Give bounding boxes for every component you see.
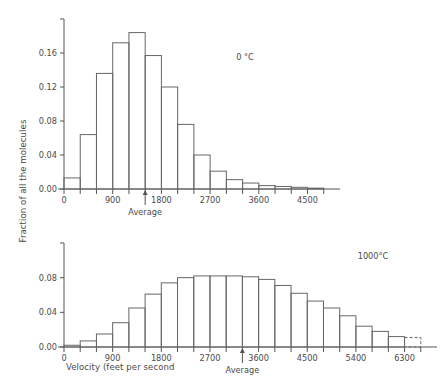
histogram-bar	[178, 278, 194, 347]
average-arrow-head	[143, 190, 148, 195]
x-axis-tick-label: 5400	[345, 353, 366, 363]
histogram-bar	[356, 326, 372, 347]
histogram-bar	[145, 294, 161, 347]
x-axis-tick-label: 1800	[151, 195, 172, 205]
histogram-bar	[194, 276, 210, 347]
x-axis-tick-label: 0	[61, 195, 66, 205]
histogram-bar	[226, 180, 242, 189]
average-arrow-head	[240, 348, 245, 353]
histogram-bar	[242, 277, 258, 347]
histogram-bar	[64, 178, 80, 189]
histogram-bar	[80, 341, 96, 347]
histogram-bar	[372, 331, 388, 347]
histogram-bar	[80, 135, 96, 189]
chart-1000c: 0.000.040.080900180027003600450054006300…	[39, 243, 437, 375]
average-label: Average	[226, 365, 260, 375]
temperature-annotation: 1000°C	[358, 251, 389, 261]
y-axis-tick-label: 0.12	[39, 82, 57, 92]
chart-0c: 0.000.040.080.120.1609001800270036004500…	[39, 19, 340, 217]
histogram-bar	[291, 187, 307, 189]
charts-svg: 0.000.040.080.120.1609001800270036004500…	[0, 0, 448, 388]
histogram-bar	[259, 279, 275, 347]
histogram-bar	[145, 56, 161, 189]
histogram-bar	[161, 87, 177, 189]
histogram-bar	[275, 186, 291, 189]
histogram-bar	[96, 334, 112, 347]
histogram-bar	[405, 337, 421, 347]
histogram-bar	[323, 308, 339, 347]
histogram-bar	[307, 301, 323, 347]
y-axis-tick-label: 0.00	[39, 342, 57, 352]
histogram-bar	[210, 171, 226, 189]
histogram-bar	[96, 73, 112, 189]
x-axis-tick-label: 6300	[394, 353, 415, 363]
y-axis-label: Fraction of all the molecules	[18, 106, 28, 256]
x-axis-tick-label: 2700	[200, 353, 221, 363]
histogram-bar	[113, 43, 129, 189]
y-axis-tick-label: 0.04	[39, 307, 57, 317]
velocity-distribution-figure: Fraction of all the molecules Velocity (…	[0, 0, 448, 388]
y-axis-tick-label: 0.16	[39, 48, 57, 58]
average-label: Average	[128, 207, 162, 217]
histogram-bar	[340, 316, 356, 347]
y-axis-tick-label: 0.08	[39, 273, 57, 283]
y-axis-tick-label: 0.04	[39, 150, 57, 160]
histogram-bar	[129, 33, 145, 189]
x-axis-tick-label: 900	[105, 195, 121, 205]
y-axis-tick-label: 0.08	[39, 116, 57, 126]
histogram-bar	[113, 323, 129, 347]
y-axis-tick-label: 0.00	[39, 184, 57, 194]
histogram-bar	[259, 186, 275, 189]
histogram-bar	[161, 283, 177, 347]
histogram-bar	[129, 308, 145, 347]
x-axis-tick-label: 2700	[200, 195, 221, 205]
histogram-bar	[64, 345, 80, 347]
histogram-bar	[308, 188, 324, 189]
x-axis-tick-label: 3600	[248, 195, 269, 205]
histogram-bar	[388, 337, 404, 347]
temperature-annotation: 0 °C	[236, 52, 254, 62]
x-axis-tick-label: 3600	[248, 353, 269, 363]
histogram-bar	[178, 124, 194, 189]
x-axis-label: Velocity (feet per second	[66, 362, 174, 372]
histogram-bar	[291, 293, 307, 347]
x-axis-tick-label: 4500	[297, 353, 318, 363]
histogram-bar	[210, 276, 226, 347]
histogram-bar	[226, 276, 242, 347]
x-axis-tick-label: 4500	[297, 195, 318, 205]
histogram-bar	[275, 285, 291, 347]
histogram-bar	[243, 183, 259, 189]
histogram-bar	[194, 155, 210, 189]
